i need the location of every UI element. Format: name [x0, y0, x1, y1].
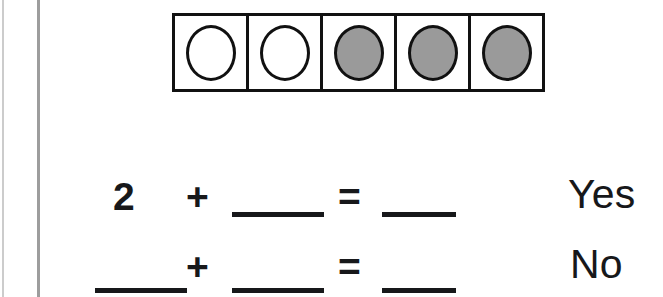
plus-sign: + [186, 246, 209, 288]
frame-cell-4[interactable] [397, 16, 471, 89]
counter-circle-empty[interactable] [260, 25, 310, 81]
equation-addend-1: 2 [113, 176, 135, 218]
equation-row-2: + = No [0, 238, 663, 297]
five-cell-counter-frame [172, 13, 545, 92]
equals-sign: = [338, 176, 361, 218]
answer-blank-sum[interactable] [382, 212, 456, 217]
answer-blank-sum[interactable] [382, 288, 456, 293]
frame-cell-5[interactable] [471, 16, 542, 89]
answer-blank-addend-2[interactable] [232, 212, 324, 217]
frame-cell-3[interactable] [323, 16, 397, 89]
equation-row-1: 2 + = Yes [0, 168, 663, 228]
counter-circle-empty[interactable] [186, 25, 236, 81]
equals-sign: = [338, 246, 361, 288]
answer-blank-addend-1[interactable] [95, 288, 187, 293]
plus-sign: + [186, 176, 209, 218]
frame-cell-2[interactable] [249, 16, 323, 89]
worksheet-page: 2 + = Yes + = No [0, 0, 663, 297]
counter-circle-filled[interactable] [408, 25, 458, 81]
choice-yes[interactable]: Yes [568, 172, 636, 216]
answer-blank-addend-2[interactable] [232, 288, 324, 293]
counter-circle-filled[interactable] [482, 25, 532, 81]
frame-cell-1[interactable] [175, 16, 249, 89]
counter-circle-filled[interactable] [334, 25, 384, 81]
choice-no[interactable]: No [570, 242, 623, 286]
